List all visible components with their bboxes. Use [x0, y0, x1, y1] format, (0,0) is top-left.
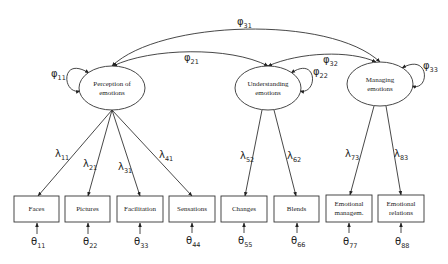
lambda83-label: λ83: [394, 148, 408, 162]
loading-arrow-lambda41: [112, 110, 192, 196]
phi31-label: φ31: [237, 16, 252, 30]
indicator-label-facilitation: Facilitation: [117, 196, 163, 222]
indicator-label-emotional-management: Emotionalmanagem.: [326, 195, 372, 222]
indicator-label-sensations: Sensations: [169, 196, 215, 222]
phi21-label: φ21: [184, 52, 199, 66]
theta66-label: θ66: [291, 235, 305, 249]
indicator-label-blends: Blends: [274, 196, 319, 222]
loading-arrow-lambda31: [112, 110, 140, 196]
indicator-label-emotional-relations: Emotionalrelations: [378, 195, 424, 222]
lambda62-label: λ62: [287, 150, 301, 164]
path-diagram: [0, 0, 448, 264]
theta88-label: θ88: [395, 236, 409, 250]
indicator-label-changes: Changes: [221, 196, 267, 222]
theta11-label: θ11: [31, 236, 45, 250]
indicator-label-pictures: Pictures: [65, 196, 110, 222]
theta33-label: θ33: [134, 236, 148, 250]
latent-label-perception: Perception of emotions: [80, 80, 144, 97]
loading-arrow-lambda11: [38, 110, 112, 196]
lambda21-label: λ21: [83, 158, 97, 172]
theta44-label: θ44: [186, 235, 200, 249]
theta55-label: θ55: [238, 235, 252, 249]
covariance-arc-phi31: [112, 29, 380, 66]
lambda52-label: λ52: [240, 150, 254, 164]
latent-label-managing: Managing emotions: [348, 76, 412, 93]
phi11-label: φ11: [51, 68, 66, 82]
indicator-label-faces: Faces: [14, 196, 59, 222]
lambda31-label: λ31: [118, 161, 132, 175]
lambda11-label: λ11: [55, 148, 69, 162]
phi22-label: φ22: [313, 66, 328, 80]
lambda73-label: λ73: [345, 148, 359, 162]
theta77-label: θ77: [343, 236, 357, 250]
lambda41-label: λ41: [159, 149, 173, 163]
theta22-label: θ22: [83, 236, 97, 250]
phi33-label: φ33: [423, 60, 438, 74]
covariance-arc-phi32: [268, 54, 376, 66]
loading-arrow-lambda21: [88, 110, 112, 196]
latent-label-understanding: Understanding emotions: [236, 80, 300, 97]
